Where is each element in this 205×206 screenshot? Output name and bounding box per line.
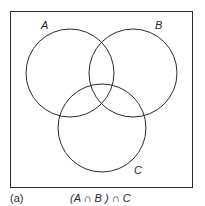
venn-diagram: A B C (a) (A ∩ B ) ∩ C (0, 0, 205, 206)
circle-c (58, 84, 146, 172)
circle-b (89, 29, 177, 117)
caption-expression: (A ∩ B ) ∩ C (70, 192, 131, 204)
label-b: B (155, 19, 162, 31)
caption-tag: (a) (10, 192, 23, 204)
label-a: A (40, 19, 48, 31)
label-c: C (134, 164, 142, 176)
circle-a (26, 29, 114, 117)
universe-box (11, 12, 193, 188)
